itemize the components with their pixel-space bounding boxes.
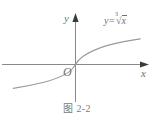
equation-equals-sign: = [109, 15, 115, 26]
y-axis-label: y [64, 13, 69, 24]
curve-group [13, 39, 140, 89]
figure-caption: 图 2-2 [0, 103, 154, 115]
radicand: x [122, 15, 127, 27]
origin-label: O [63, 66, 72, 78]
cube-root-curve [13, 39, 140, 89]
x-axis-label: x [141, 68, 146, 79]
root-index: 3 [115, 11, 118, 17]
equation-lhs: y [104, 15, 108, 26]
y-axis-arrowhead [72, 13, 78, 22]
equation-annotation: y=3√x [104, 15, 127, 27]
cube-root-radical: 3√x [115, 15, 127, 27]
figure-container: y x O y=3√x 图 2-2 [0, 0, 154, 125]
